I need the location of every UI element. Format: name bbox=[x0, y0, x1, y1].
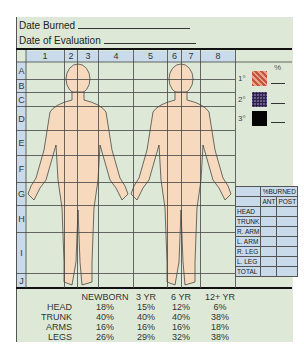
burn-row-label: TOTAL bbox=[236, 267, 261, 277]
burn-table-title: %BURNED bbox=[261, 187, 298, 197]
burn-table-corner-2 bbox=[236, 197, 261, 207]
legend-third-degree-label: 3° bbox=[238, 114, 246, 123]
age-header-6yr: 6 YR bbox=[163, 292, 199, 302]
burn-table-corner bbox=[236, 187, 261, 197]
age-row-label-head: HEAD bbox=[12, 302, 72, 312]
post-cell[interactable] bbox=[277, 217, 298, 227]
second-degree-swatch bbox=[252, 92, 267, 107]
age-value: 29% bbox=[128, 332, 164, 342]
ant-cell[interactable] bbox=[261, 227, 277, 237]
burn-table-post-header: POST bbox=[277, 197, 298, 207]
age-value: 38% bbox=[200, 312, 240, 322]
post-cell[interactable] bbox=[277, 227, 298, 237]
legend-first-degree-label: 1° bbox=[238, 74, 246, 83]
table-row: L. ARM bbox=[236, 237, 298, 247]
burn-row-label: L. LEG bbox=[236, 257, 261, 267]
ant-cell[interactable] bbox=[261, 217, 277, 227]
age-value: 18% bbox=[80, 302, 130, 312]
age-value: 40% bbox=[128, 312, 164, 322]
first-degree-percent-line[interactable] bbox=[271, 83, 285, 84]
table-row: HEAD bbox=[236, 207, 298, 217]
post-cell[interactable] bbox=[277, 237, 298, 247]
burn-row-label: R. ARM bbox=[236, 227, 261, 237]
age-row-label-trunk: TRUNK bbox=[12, 312, 72, 322]
burn-row-label: L. ARM bbox=[236, 237, 261, 247]
table-row: TRUNK bbox=[236, 217, 298, 227]
table-row: TOTAL bbox=[236, 267, 298, 277]
ant-cell[interactable] bbox=[261, 207, 277, 217]
table-row: R. ARM bbox=[236, 227, 298, 237]
first-degree-swatch bbox=[252, 71, 267, 86]
age-value: 16% bbox=[80, 322, 130, 332]
age-value: 38% bbox=[200, 332, 240, 342]
ant-cell[interactable] bbox=[261, 237, 277, 247]
age-value: 15% bbox=[128, 302, 164, 312]
third-degree-percent-line[interactable] bbox=[271, 122, 285, 123]
burn-row-label: TRUNK bbox=[236, 217, 261, 227]
burn-row-label: HEAD bbox=[236, 207, 261, 217]
posterior-body-figure bbox=[131, 64, 231, 285]
age-value: 16% bbox=[163, 322, 199, 332]
post-cell[interactable] bbox=[277, 267, 298, 277]
burn-table-ant-header: ANT bbox=[261, 197, 277, 207]
burn-row-label: R. LEG bbox=[236, 247, 261, 257]
table-row: L. LEG bbox=[236, 257, 298, 267]
ant-cell[interactable] bbox=[261, 247, 277, 257]
post-cell[interactable] bbox=[277, 257, 298, 267]
age-value: 6% bbox=[200, 302, 240, 312]
age-row-label-arms: ARMS bbox=[12, 322, 72, 332]
age-row-label-legs: LEGS bbox=[12, 332, 72, 342]
age-header-3yr: 3 YR bbox=[128, 292, 164, 302]
age-value: 40% bbox=[163, 312, 199, 322]
ant-cell[interactable] bbox=[261, 267, 277, 277]
post-cell[interactable] bbox=[277, 207, 298, 217]
age-value: 26% bbox=[80, 332, 130, 342]
age-value: 32% bbox=[163, 332, 199, 342]
anterior-body-figure bbox=[28, 64, 128, 285]
age-value: 40% bbox=[80, 312, 130, 322]
age-value: 12% bbox=[163, 302, 199, 312]
second-degree-percent-line[interactable] bbox=[271, 103, 285, 104]
age-value: 18% bbox=[200, 322, 240, 332]
age-value: 16% bbox=[128, 322, 164, 332]
percent-burned-table: %BURNED ANT POST HEAD TRUNK R. ARM L. AR… bbox=[235, 186, 298, 277]
age-header-12yr: 12+ YR bbox=[200, 292, 240, 302]
ant-cell[interactable] bbox=[261, 257, 277, 267]
legend-second-degree-label: 2° bbox=[238, 95, 246, 104]
age-header-newborn: NEWBORN bbox=[80, 292, 130, 302]
table-row: R. LEG bbox=[236, 247, 298, 257]
post-cell[interactable] bbox=[277, 247, 298, 257]
legend-percent-label: % bbox=[274, 63, 281, 72]
third-degree-swatch bbox=[252, 111, 267, 126]
